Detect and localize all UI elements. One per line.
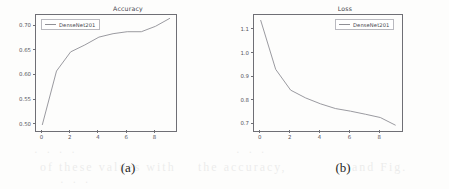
y-tick-mark [33,49,36,50]
y-tick-mark [33,123,36,124]
x-tick-mark [349,130,350,133]
plot-frame-loss [253,14,403,132]
x-tick-mark [379,130,380,133]
y-tick-mark [251,28,254,29]
x-tick-label: 2 [62,134,78,140]
x-tick-mark [69,130,70,133]
x-tick-mark [97,130,98,133]
chart-title-accuracy: Accuracy [0,5,240,12]
y-tick-label: 0.60 [15,71,31,77]
y-tick-mark [251,99,254,100]
x-tick-mark [259,130,260,133]
y-tick-label: 0.8 [233,97,249,103]
legend-swatch-icon [339,24,350,25]
y-tick-label: 0.50 [15,121,31,127]
plot-area-accuracy [36,15,176,131]
y-tick-label: 0.55 [15,96,31,102]
y-tick-label: 0.70 [15,22,31,28]
y-tick-label: 0.9 [233,73,249,79]
y-tick-label: 0.7 [233,120,249,126]
x-tick-label: 4 [90,134,106,140]
figure-container: Accuracy 0.500.550.600.650.7002468 Dense… [0,0,449,189]
legend-loss: DenseNet201 [335,19,394,30]
plot-area-loss [254,15,402,131]
legend-label-densenet201: DenseNet201 [353,22,389,28]
legend-label-densenet201: DenseNet201 [59,22,95,28]
chart-title-loss: Loss [225,5,449,12]
x-tick-label: 8 [146,134,162,140]
y-tick-label: 1.0 [233,50,249,56]
subfigure-b: Loss 0.70.80.91.01.102468 DenseNet201 (b… [225,0,449,189]
x-tick-label: 8 [371,134,387,140]
x-tick-label: 4 [312,134,328,140]
x-tick-mark [154,130,155,133]
legend-accuracy: DenseNet201 [41,19,100,30]
x-tick-label: 2 [282,134,298,140]
y-tick-mark [251,76,254,77]
x-tick-mark [289,130,290,133]
series-line-densenet201-accuracy [42,18,169,124]
y-tick-mark [33,99,36,100]
y-tick-mark [251,52,254,53]
subfigure-caption-b: (b) [225,160,449,176]
series-line-densenet201-loss [261,20,396,125]
x-tick-mark [41,130,42,133]
x-tick-label: 0 [252,134,268,140]
y-tick-mark [33,74,36,75]
x-tick-label: 0 [33,134,49,140]
y-tick-mark [33,25,36,26]
x-tick-mark [319,130,320,133]
y-tick-label: 1.1 [233,26,249,32]
legend-swatch-icon [45,24,56,25]
x-tick-label: 6 [118,134,134,140]
subfigure-a: Accuracy 0.500.550.600.650.7002468 Dense… [0,0,224,189]
plot-frame-accuracy [35,14,177,132]
subfigure-caption-a: (a) [0,160,240,176]
y-tick-mark [251,123,254,124]
x-tick-label: 6 [341,134,357,140]
x-tick-mark [126,130,127,133]
y-tick-label: 0.65 [15,47,31,53]
